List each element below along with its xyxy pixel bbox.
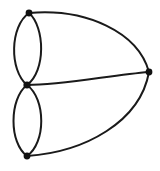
edge-b-d-middle: [27, 72, 149, 85]
vertex-a-top: [26, 10, 33, 17]
edge-b-c-left: [14, 85, 28, 156]
edge-a-d-outer-top: [29, 12, 149, 72]
vertex-c-bottom: [24, 153, 31, 160]
edge-a-b-left: [14, 13, 29, 85]
edge-layer: [14, 12, 150, 156]
edge-b-c-right: [27, 85, 41, 156]
vertex-d-right: [146, 69, 153, 76]
edge-a-b-right: [27, 13, 41, 85]
graph-figure: [0, 0, 160, 171]
vertex-b-middle: [23, 81, 30, 88]
graph-canvas: [0, 0, 160, 171]
